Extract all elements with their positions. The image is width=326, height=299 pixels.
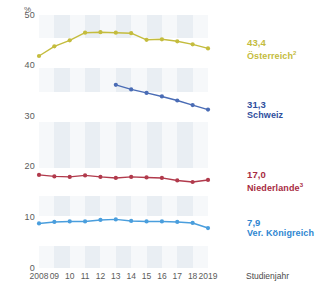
data-point <box>175 98 179 102</box>
legend-value: 31,3 <box>247 99 283 110</box>
series-line <box>39 175 208 182</box>
data-point <box>114 83 118 87</box>
data-point <box>68 38 72 42</box>
data-point <box>191 42 195 46</box>
data-point <box>175 39 179 43</box>
data-point <box>114 31 118 35</box>
series-line <box>39 32 208 56</box>
data-point <box>52 44 56 48</box>
data-point <box>129 175 133 179</box>
data-point <box>191 221 195 225</box>
data-point <box>83 219 87 223</box>
data-point <box>206 46 210 50</box>
data-point <box>191 103 195 107</box>
data-point <box>144 91 148 95</box>
legend-item-niederlande: 17,0Niederlande3 <box>247 169 303 194</box>
legend-footnote-marker: 2 <box>293 50 296 56</box>
data-point <box>37 221 41 225</box>
legend-label: Schweiz <box>247 110 283 121</box>
data-point <box>129 87 133 91</box>
data-point <box>68 219 72 223</box>
data-point <box>83 173 87 177</box>
data-point <box>37 54 41 58</box>
series-schweiz <box>114 83 210 112</box>
data-point <box>175 178 179 182</box>
data-point <box>144 175 148 179</box>
legend-label: Ver. Königreich <box>247 228 314 239</box>
data-point <box>98 30 102 34</box>
data-point <box>68 175 72 179</box>
data-point <box>144 219 148 223</box>
data-point <box>206 226 210 230</box>
data-point <box>114 217 118 221</box>
data-point <box>83 31 87 35</box>
data-point <box>175 220 179 224</box>
data-point <box>98 218 102 222</box>
legend-label: Niederlande3 <box>247 180 303 194</box>
legend-item--sterreich: 43,4Österreich2 <box>247 37 296 62</box>
data-point <box>129 219 133 223</box>
data-point <box>98 175 102 179</box>
series-niederlande <box>37 173 210 184</box>
data-point <box>191 180 195 184</box>
legend-footnote-marker: 3 <box>300 182 303 188</box>
data-point <box>129 31 133 35</box>
data-point <box>114 176 118 180</box>
series--sterreich <box>37 30 210 58</box>
legend-item-schweiz: 31,3Schweiz <box>247 99 283 121</box>
data-point <box>160 219 164 223</box>
data-point <box>206 108 210 112</box>
legend-value: 17,0 <box>247 169 303 180</box>
chart-root: % 50403020100 20080910111213141516171820… <box>0 0 326 299</box>
data-point <box>206 178 210 182</box>
data-point <box>160 37 164 41</box>
series-ver-k-nigreich <box>37 217 210 230</box>
data-point <box>160 176 164 180</box>
data-point <box>144 38 148 42</box>
legend-value: 7,9 <box>247 217 314 228</box>
data-point <box>52 220 56 224</box>
data-point <box>160 94 164 98</box>
legend-label: Österreich2 <box>247 48 296 62</box>
data-point <box>37 173 41 177</box>
data-point <box>52 174 56 178</box>
legend-item-ver-k-nigreich: 7,9Ver. Königreich <box>247 217 314 239</box>
series-line <box>39 219 208 228</box>
legend-value: 43,4 <box>247 37 296 48</box>
